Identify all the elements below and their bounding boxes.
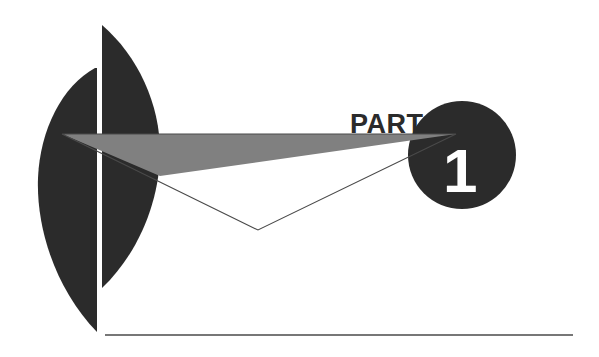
divider-artwork: PART 1: [0, 0, 599, 357]
part-number: 1: [443, 136, 477, 205]
part-label: PART: [350, 109, 424, 139]
part-divider-page: PART 1: [0, 0, 599, 357]
